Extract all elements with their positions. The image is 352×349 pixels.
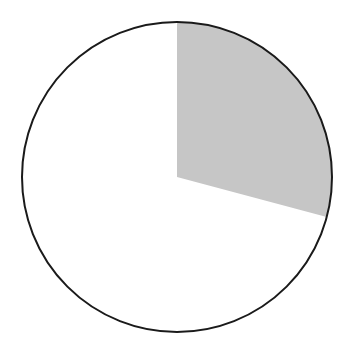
pie-chart-canvas <box>0 0 352 349</box>
pie-chart-figure <box>0 0 352 349</box>
